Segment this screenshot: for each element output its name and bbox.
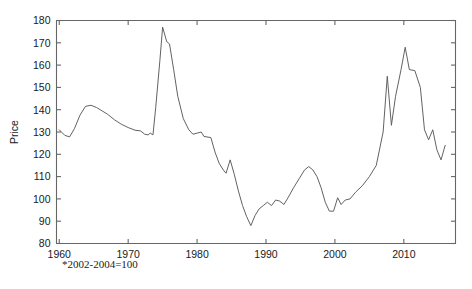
chart-footnote: *2002-2004=100 <box>62 258 138 270</box>
price-series-line <box>59 27 445 225</box>
x-tick-label: 1980 <box>185 248 209 260</box>
y-tick-label: 80 <box>39 237 51 249</box>
y-tick-label: 130 <box>33 126 51 138</box>
chart-canvas: 196019701980199020002010 809010011012013… <box>0 0 472 289</box>
y-tick-label: 140 <box>33 104 51 116</box>
y-tick-label: 160 <box>33 59 51 71</box>
y-tick-label: 150 <box>33 81 51 93</box>
y-tick-label: 100 <box>33 193 51 205</box>
plot-border <box>57 21 456 244</box>
y-axis-tick-labels: 8090100110120130140150160170180 <box>33 14 51 249</box>
x-tick-label: 2010 <box>392 248 416 260</box>
y-axis-ticks <box>57 21 456 244</box>
x-tick-label: 1990 <box>254 248 278 260</box>
y-tick-label: 90 <box>39 215 51 227</box>
y-tick-label: 170 <box>33 37 51 49</box>
x-tick-label: 2000 <box>323 248 347 260</box>
y-axis-title: Price <box>8 120 20 144</box>
price-index-chart-figure: 196019701980199020002010 809010011012013… <box>0 0 472 289</box>
y-tick-label: 180 <box>33 14 51 26</box>
y-tick-label: 110 <box>34 170 51 182</box>
x-axis-ticks <box>59 21 404 244</box>
y-tick-label: 120 <box>33 148 51 160</box>
plot-frame <box>57 21 456 244</box>
